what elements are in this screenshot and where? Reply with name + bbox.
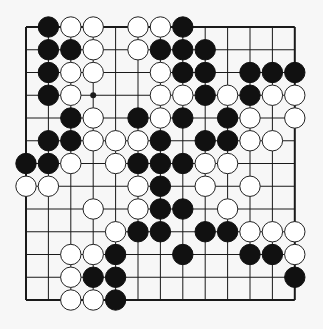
black-stone[interactable] (38, 85, 58, 105)
black-stone[interactable] (38, 131, 58, 151)
black-stone[interactable] (195, 62, 215, 82)
black-stone[interactable] (173, 244, 193, 264)
white-stone[interactable] (128, 17, 148, 37)
black-stone[interactable] (195, 131, 215, 151)
black-stone[interactable] (195, 40, 215, 60)
white-stone[interactable] (83, 62, 103, 82)
black-stone[interactable] (38, 153, 58, 173)
white-stone[interactable] (240, 108, 260, 128)
white-stone[interactable] (83, 290, 103, 310)
white-stone[interactable] (61, 153, 81, 173)
white-stone[interactable] (61, 244, 81, 264)
black-stone[interactable] (173, 40, 193, 60)
white-stone[interactable] (217, 199, 237, 219)
black-stone[interactable] (217, 222, 237, 242)
black-stone[interactable] (217, 108, 237, 128)
white-stone[interactable] (38, 176, 58, 196)
black-stone[interactable] (150, 176, 170, 196)
white-stone[interactable] (105, 222, 125, 242)
white-stone[interactable] (262, 222, 282, 242)
white-stone[interactable] (83, 17, 103, 37)
white-stone[interactable] (150, 108, 170, 128)
white-stone[interactable] (150, 85, 170, 105)
white-stone[interactable] (61, 17, 81, 37)
black-stone[interactable] (195, 85, 215, 105)
white-stone[interactable] (262, 131, 282, 151)
black-stone[interactable] (240, 62, 260, 82)
white-stone[interactable] (195, 176, 215, 196)
black-stone[interactable] (150, 199, 170, 219)
white-stone[interactable] (105, 153, 125, 173)
black-stone[interactable] (173, 17, 193, 37)
black-stone[interactable] (173, 153, 193, 173)
black-stone[interactable] (240, 244, 260, 264)
white-stone[interactable] (240, 131, 260, 151)
white-stone[interactable] (173, 85, 193, 105)
black-stone[interactable] (38, 62, 58, 82)
black-stone[interactable] (128, 222, 148, 242)
white-stone[interactable] (83, 244, 103, 264)
black-stone[interactable] (285, 62, 305, 82)
white-stone[interactable] (217, 85, 237, 105)
white-stone[interactable] (16, 176, 36, 196)
black-stone[interactable] (285, 267, 305, 287)
white-stone[interactable] (128, 131, 148, 151)
white-stone[interactable] (128, 40, 148, 60)
black-stone[interactable] (61, 131, 81, 151)
black-stone[interactable] (240, 85, 260, 105)
white-stone[interactable] (61, 62, 81, 82)
white-stone[interactable] (105, 131, 125, 151)
white-stone[interactable] (83, 131, 103, 151)
white-stone[interactable] (83, 40, 103, 60)
white-stone[interactable] (262, 85, 282, 105)
white-stone[interactable] (128, 176, 148, 196)
white-stone[interactable] (285, 222, 305, 242)
white-stone[interactable] (61, 290, 81, 310)
white-stone[interactable] (61, 85, 81, 105)
black-stone[interactable] (150, 131, 170, 151)
go-board (0, 0, 323, 329)
black-stone[interactable] (38, 40, 58, 60)
white-stone[interactable] (83, 108, 103, 128)
black-stone[interactable] (217, 131, 237, 151)
black-stone[interactable] (262, 244, 282, 264)
black-stone[interactable] (173, 108, 193, 128)
white-stone[interactable] (83, 199, 103, 219)
white-stone[interactable] (285, 108, 305, 128)
white-stone[interactable] (150, 17, 170, 37)
black-stone[interactable] (61, 40, 81, 60)
black-stone[interactable] (173, 199, 193, 219)
black-stone[interactable] (38, 17, 58, 37)
white-stone[interactable] (285, 244, 305, 264)
black-stone[interactable] (173, 62, 193, 82)
black-stone[interactable] (105, 244, 125, 264)
white-stone[interactable] (61, 267, 81, 287)
black-stone[interactable] (150, 222, 170, 242)
black-stone[interactable] (128, 153, 148, 173)
black-stone[interactable] (83, 267, 103, 287)
white-stone[interactable] (285, 85, 305, 105)
white-stone[interactable] (150, 62, 170, 82)
black-stone[interactable] (262, 62, 282, 82)
black-stone[interactable] (150, 40, 170, 60)
black-stone[interactable] (195, 222, 215, 242)
black-stone[interactable] (150, 153, 170, 173)
black-stone[interactable] (16, 153, 36, 173)
white-stone[interactable] (240, 222, 260, 242)
black-stone[interactable] (128, 108, 148, 128)
black-stone[interactable] (105, 290, 125, 310)
black-stone[interactable] (105, 267, 125, 287)
white-stone[interactable] (128, 199, 148, 219)
go-board-grid[interactable] (0, 0, 323, 329)
white-stone[interactable] (217, 153, 237, 173)
black-stone[interactable] (61, 108, 81, 128)
white-stone[interactable] (195, 153, 215, 173)
star-point (90, 92, 96, 98)
white-stone[interactable] (240, 176, 260, 196)
